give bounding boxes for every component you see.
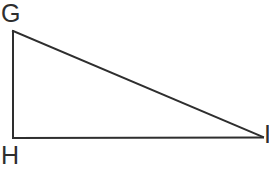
edge-h-i	[13, 138, 263, 139]
vertex-label-h: H	[1, 143, 19, 168]
diagram-canvas: G H I	[0, 0, 269, 169]
edge-g-i	[13, 31, 263, 137]
vertex-label-g: G	[1, 1, 20, 26]
vertex-label-i: I	[264, 122, 269, 147]
triangle-figure	[0, 0, 269, 169]
